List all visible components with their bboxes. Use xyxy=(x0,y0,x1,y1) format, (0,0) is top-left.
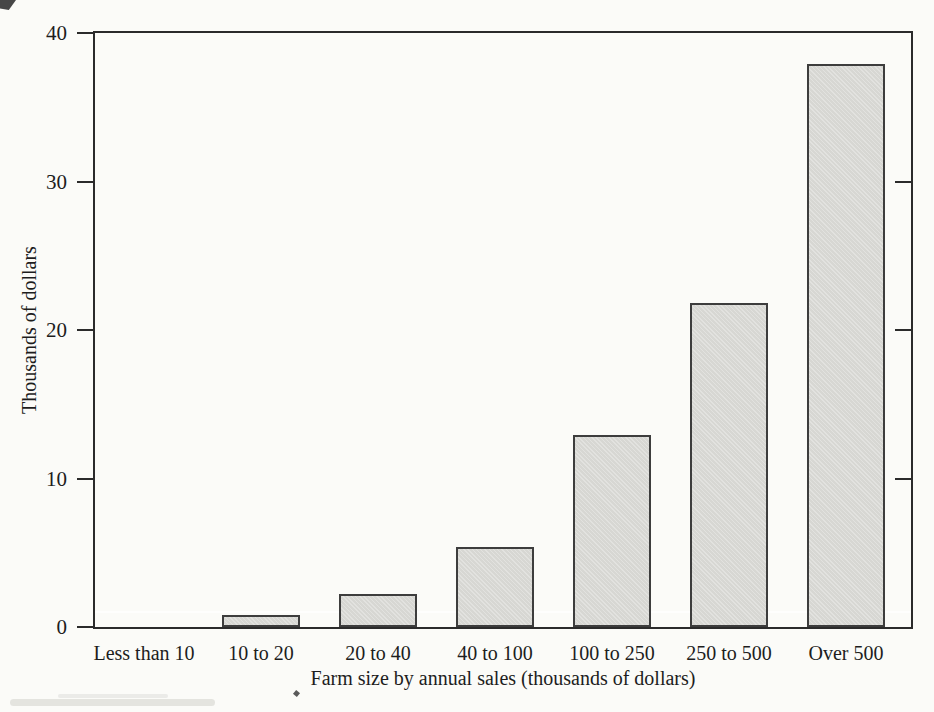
x-axis-category-label: 100 to 250 xyxy=(569,641,655,665)
y-axis-tick-label: 10 xyxy=(13,467,67,491)
x-axis-category-label: 10 to 20 xyxy=(228,641,294,665)
bar-over-500 xyxy=(807,64,885,627)
x-axis-category-label: Less than 10 xyxy=(93,641,194,665)
x-axis-category-label: 250 to 500 xyxy=(686,641,772,665)
y-axis-tick-right xyxy=(895,329,911,331)
scan-artifact-corner xyxy=(0,0,16,10)
bar-250-to-500 xyxy=(690,303,768,627)
bar-100-to-250 xyxy=(573,435,651,627)
y-axis-tick-label: 30 xyxy=(13,170,67,194)
bar-20-to-40 xyxy=(339,594,417,627)
y-axis-tick-left xyxy=(77,478,95,480)
y-axis-tick-label: 40 xyxy=(13,21,67,45)
bar-10-to-20 xyxy=(222,615,300,627)
scan-artifact-smudge xyxy=(10,699,215,706)
scan-artifact-speck xyxy=(293,690,300,697)
x-axis-category-label: 40 to 100 xyxy=(457,641,533,665)
y-axis-tick-label: 0 xyxy=(13,615,67,639)
figure-root: Thousands of dollars Farm size by annual… xyxy=(0,0,934,712)
y-axis-tick-right xyxy=(895,181,911,183)
y-axis-tick-left xyxy=(77,32,95,34)
y-axis-tick-left xyxy=(77,626,95,628)
x-axis-category-label: 20 to 40 xyxy=(345,641,411,665)
bar-40-to-100 xyxy=(456,547,534,627)
x-axis-category-label: Over 500 xyxy=(809,641,884,665)
plot-area xyxy=(93,31,913,629)
y-axis-tick-label: 20 xyxy=(13,318,67,342)
y-axis-tick-right xyxy=(895,478,911,480)
y-axis-tick-left xyxy=(77,329,95,331)
y-axis-tick-left xyxy=(77,181,95,183)
scan-artifact-smudge-2 xyxy=(58,694,168,698)
x-axis-title: Farm size by annual sales (thousands of … xyxy=(311,667,696,690)
